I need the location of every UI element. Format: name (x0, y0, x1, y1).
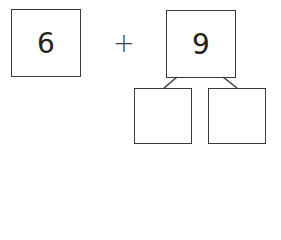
split-box-right[interactable] (208, 88, 266, 144)
split-box-left[interactable] (134, 88, 192, 144)
